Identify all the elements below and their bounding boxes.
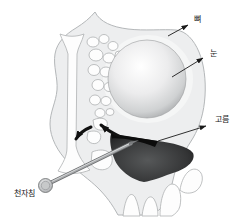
figure-canvas: 뼈 눈 고름 천자침 [0,0,249,219]
pus-label: 고름 [215,115,229,124]
anatomy-illustration [0,0,249,219]
eye-label: 눈 [210,49,217,58]
puncture-needle-label: 천자침 [14,189,35,198]
bone-label: 뼈 [194,15,201,24]
eyeball [108,40,186,118]
